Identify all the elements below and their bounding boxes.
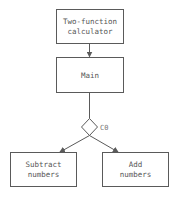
calculator-label-line-1: Two-function xyxy=(63,17,117,26)
edge-c0-to-subtract xyxy=(60,136,90,153)
node-add-numbers: Add numbers xyxy=(103,153,169,187)
edge-c0-to-add xyxy=(90,136,119,153)
node-two-function-calculator: Two-function calculator xyxy=(57,10,124,44)
decision-label: C0 xyxy=(100,124,108,132)
calculator-label-line-2: calculator xyxy=(67,27,113,36)
decision-diamond xyxy=(82,119,98,136)
flowchart-canvas: Two-function calculator Main C0 Subtract… xyxy=(0,0,178,199)
subtract-label-line-2: numbers xyxy=(28,170,60,179)
add-label-line-1: Add xyxy=(129,160,143,169)
main-label: Main xyxy=(81,71,99,80)
node-subtract-numbers: Subtract numbers xyxy=(11,153,77,187)
add-label-line-2: numbers xyxy=(120,170,152,179)
decision-c0: C0 xyxy=(82,119,109,136)
node-main: Main xyxy=(57,58,124,93)
subtract-label-line-1: Subtract xyxy=(25,160,61,169)
